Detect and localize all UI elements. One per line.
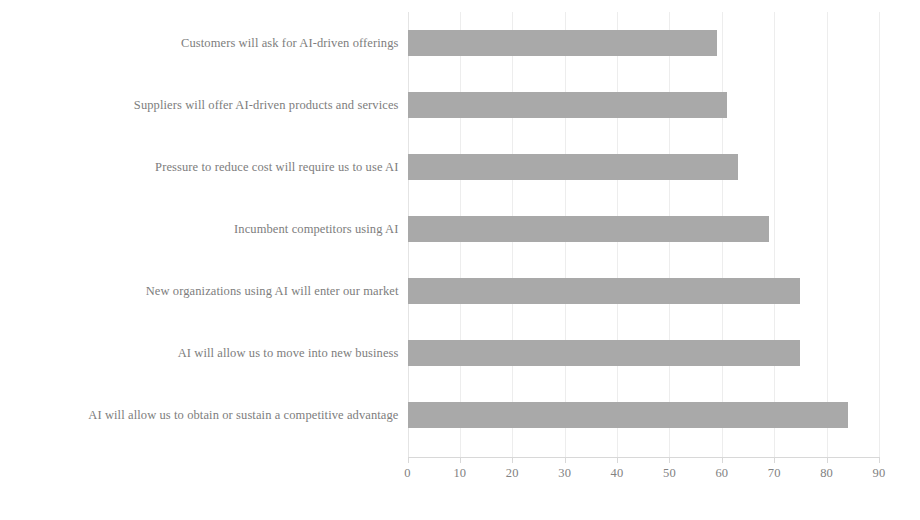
bar [408,340,801,366]
x-tick-mark-60 [722,457,723,463]
category-label-text: New organizations using AI will enter ou… [0,278,399,304]
x-tick-mark-90 [879,457,880,463]
x-tick-label: 80 [807,466,847,481]
x-tick-mark-40 [617,457,618,463]
bar [408,154,738,180]
bar [408,402,848,428]
x-tick-label: 90 [859,466,899,481]
x-tick-label: 20 [492,466,532,481]
x-tick-mark-0 [408,457,409,463]
bar-row [408,136,880,198]
bar [408,216,769,242]
x-tick-mark-10 [460,457,461,463]
category-label-text: AI will allow us to obtain or sustain a … [0,402,399,428]
x-tick-label: 50 [649,466,689,481]
category-label: New organizations using AI will enter ou… [0,278,399,304]
x-tick-label: 30 [545,466,585,481]
bar-row [408,74,880,136]
x-tick-mark-80 [827,457,828,463]
category-label: AI will allow us to obtain or sustain a … [0,402,399,428]
category-label: Incumbent competitors using AI [0,216,399,242]
category-label-text: Suppliers will offer AI-driven products … [0,92,399,118]
x-tick-label: 70 [754,466,794,481]
x-tick-label: 60 [702,466,742,481]
category-label-text: Customers will ask for AI-driven offerin… [0,30,399,56]
category-label-text: Pressure to reduce cost will require us … [0,154,399,180]
bar-row [408,384,880,446]
bar [408,30,717,56]
x-tick-label: 10 [440,466,480,481]
gridline-90 [879,12,880,457]
bar-chart: Customers will ask for AI-driven offerin… [0,0,920,520]
x-tick-label: 40 [597,466,637,481]
bar [408,92,728,118]
x-tick-mark-70 [774,457,775,463]
category-label-text: AI will allow us to move into new busine… [0,340,399,366]
x-axis-line [408,457,880,458]
x-tick-label: 0 [388,466,428,481]
bar-row [408,12,880,74]
category-label: Pressure to reduce cost will require us … [0,154,399,180]
plot-area [408,12,880,457]
bar [408,278,801,304]
category-label: AI will allow us to move into new busine… [0,340,399,366]
x-tick-mark-20 [512,457,513,463]
x-tick-mark-30 [565,457,566,463]
bar-row [408,260,880,322]
category-label: Suppliers will offer AI-driven products … [0,92,399,118]
bar-row [408,198,880,260]
category-label: Customers will ask for AI-driven offerin… [0,30,399,56]
category-label-text: Incumbent competitors using AI [0,216,399,242]
x-tick-mark-50 [669,457,670,463]
bar-row [408,322,880,384]
